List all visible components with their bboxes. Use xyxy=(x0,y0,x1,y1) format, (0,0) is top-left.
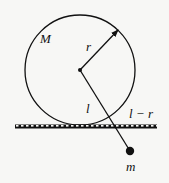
label-large-mass: M xyxy=(39,31,52,46)
ground-surface xyxy=(15,125,157,129)
pivot-dot xyxy=(78,68,82,72)
pendulum-diagram: M r l l − r m xyxy=(0,0,169,183)
label-small-mass: m xyxy=(126,159,135,174)
label-rod-length: l xyxy=(86,101,90,116)
small-mass-bob xyxy=(126,147,134,155)
label-radius: r xyxy=(86,39,92,54)
label-below-ground-length: l − r xyxy=(129,106,154,121)
diagram-canvas: M r l l − r m xyxy=(0,0,169,183)
